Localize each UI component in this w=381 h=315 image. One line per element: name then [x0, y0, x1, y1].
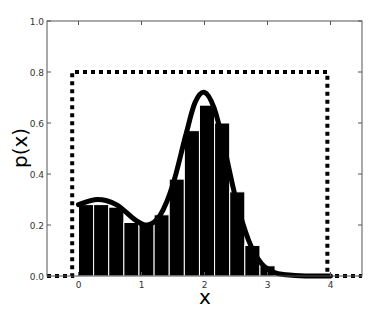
x-axis-label: x	[199, 285, 211, 309]
plot-area: 0.00.20.40.60.81.0 01234 x p(x)	[0, 0, 381, 315]
y-tick-label: 1.0	[30, 17, 45, 27]
histogram-bar	[199, 105, 214, 276]
histogram-bar	[109, 207, 124, 276]
y-tick-label: 0.6	[30, 119, 45, 129]
y-axis-label: p(x)	[8, 128, 32, 168]
histogram-bar	[79, 205, 94, 276]
histogram-bars	[79, 105, 276, 276]
x-tick-label: 4	[328, 280, 334, 290]
x-tick-label: 1	[139, 280, 145, 290]
histogram-bar	[124, 222, 139, 276]
y-tick-label: 0.2	[30, 221, 44, 231]
chart: 0.00.20.40.60.81.0 01234 x p(x)	[0, 0, 381, 315]
histogram-bar	[94, 205, 109, 276]
x-tick-label: 0	[76, 280, 82, 290]
y-tick-label: 0.4	[30, 170, 45, 180]
x-tick-label: 3	[265, 280, 271, 290]
histogram-bar	[154, 215, 169, 276]
histogram-bar	[184, 131, 199, 276]
histogram-bar	[139, 222, 154, 276]
y-tick-label: 0.0	[30, 272, 45, 282]
y-tick-label: 0.8	[30, 68, 45, 78]
